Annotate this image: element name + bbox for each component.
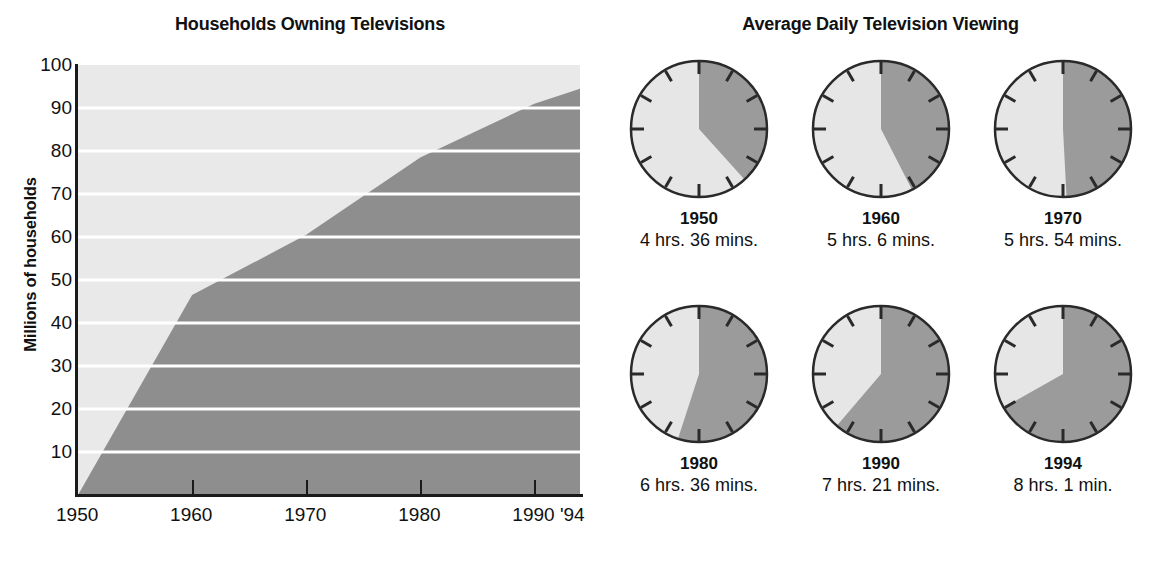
clock-item-1960: 19605 hrs. 6 mins. (790, 55, 972, 300)
x-tick-label: 1990 '94 (512, 505, 584, 524)
y-axis-tick-labels: 100908070605040302010 (8, 0, 72, 568)
y-tick-label: 40 (16, 313, 72, 332)
y-tick-label: 10 (16, 442, 72, 461)
page-title: Households Owning Televisions (60, 14, 560, 35)
clock-grid: 19504 hrs. 36 mins.19605 hrs. 6 mins.197… (600, 55, 1161, 545)
y-tick-label: 30 (16, 356, 72, 375)
clock-year-label: 1970 (972, 209, 1154, 229)
y-tick-label: 100 (16, 55, 72, 74)
y-tick-label: 70 (16, 184, 72, 203)
clock-face (625, 55, 773, 203)
clock-year-label: 1960 (790, 209, 972, 229)
clock-face (807, 300, 955, 448)
x-tick-label: 1980 (398, 505, 440, 524)
y-tick-label: 20 (16, 399, 72, 418)
x-tick-mark (420, 480, 422, 495)
x-tick-mark (306, 480, 308, 495)
clock-item-1980: 19806 hrs. 36 mins. (608, 300, 790, 545)
clock-year-label: 1990 (790, 454, 972, 474)
x-tick-mark (534, 480, 536, 495)
clock-face (989, 300, 1137, 448)
x-tick-label: 1960 (170, 505, 212, 524)
clock-time-label: 7 hrs. 21 mins. (790, 475, 972, 497)
y-tick-label: 80 (16, 141, 72, 160)
clock-year-label: 1980 (608, 454, 790, 474)
clock-time-label: 8 hrs. 1 min. (972, 475, 1154, 497)
y-tick-label: 60 (16, 227, 72, 246)
clock-row: 19504 hrs. 36 mins.19605 hrs. 6 mins.197… (600, 55, 1161, 300)
clock-item-1970: 19705 hrs. 54 mins. (972, 55, 1154, 300)
clock-face (625, 300, 773, 448)
x-tick-mark (192, 480, 194, 495)
clock-time-label: 4 hrs. 36 mins. (608, 230, 790, 252)
clock-row: 19806 hrs. 36 mins.19907 hrs. 21 mins.19… (600, 300, 1161, 545)
clock-item-1950: 19504 hrs. 36 mins. (608, 55, 790, 300)
clock-time-label: 5 hrs. 6 mins. (790, 230, 972, 252)
clock-year-label: 1950 (608, 209, 790, 229)
clock-item-1990: 19907 hrs. 21 mins. (790, 300, 972, 545)
clock-year-label: 1994 (972, 454, 1154, 474)
y-axis-line (75, 64, 78, 497)
clocks-title: Average Daily Television Viewing (600, 14, 1161, 35)
y-tick-label: 90 (16, 98, 72, 117)
area-chart-svg (78, 65, 580, 495)
clock-item-1994: 19948 hrs. 1 min. (972, 300, 1154, 545)
x-tick-label: 1970 (284, 505, 326, 524)
x-tick-label: 1950 (56, 505, 98, 524)
clock-face (807, 55, 955, 203)
households-area-chart-panel: Households Owning Televisions Millions o… (0, 0, 600, 568)
clock-time-label: 6 hrs. 36 mins. (608, 475, 790, 497)
daily-viewing-clocks-panel: Average Daily Television Viewing 19504 h… (600, 0, 1161, 568)
y-tick-label: 50 (16, 270, 72, 289)
plot-area (78, 65, 580, 495)
clock-face (989, 55, 1137, 203)
clock-time-label: 5 hrs. 54 mins. (972, 230, 1154, 252)
x-axis-line (75, 494, 583, 497)
